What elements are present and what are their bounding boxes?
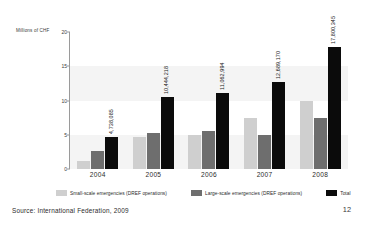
bar-group: 10,444,218: [126, 32, 182, 169]
bar-small: [188, 135, 201, 169]
x-tick-label: 2004: [70, 171, 126, 178]
bar-small: [300, 101, 313, 170]
source-note: Source: International Federation, 2009: [12, 207, 129, 214]
x-tick-label: 2007: [237, 171, 293, 178]
legend-swatch: [326, 190, 337, 196]
page-number: 12: [343, 205, 351, 214]
bar-large: [91, 151, 104, 169]
bar-total: 4,738,085: [105, 137, 118, 169]
legend-item: Total: [326, 190, 350, 196]
bar-small: [244, 118, 257, 169]
bar-group: 17,800,345: [292, 32, 348, 169]
x-tick-label: 2005: [126, 171, 182, 178]
legend-swatch: [56, 190, 67, 196]
x-tick-label: 2008: [292, 171, 348, 178]
legend-label: Small-scale emergencies (DREF operations…: [70, 191, 167, 196]
bar-large: [147, 133, 160, 169]
plot-area: 05101520 4,738,08510,444,21811,062,99412…: [70, 32, 348, 169]
bar-value-label: 4,738,085: [108, 109, 114, 134]
bar-group: 12,689,170: [237, 32, 293, 169]
legend-label: Total: [340, 191, 350, 196]
y-axis-unit-caption: Millions of CHF: [16, 28, 49, 33]
bar-total: 10,444,218: [161, 97, 174, 169]
bar-large: [314, 118, 327, 169]
bar-large: [202, 131, 215, 169]
legend-item: Small-scale emergencies (DREF operations…: [56, 190, 167, 196]
legend-label: Large-scale emergencies (DREF operations…: [205, 191, 302, 196]
bar-group: 4,738,085: [70, 32, 126, 169]
bar-value-label: 10,444,218: [163, 66, 169, 94]
x-axis-labels: 20042005200620072008: [70, 171, 348, 178]
bar-total: 11,062,994: [216, 93, 229, 169]
bar-value-label: 12,689,170: [275, 51, 281, 79]
bar-large: [258, 135, 271, 169]
bar-value-label: 17,800,345: [330, 16, 336, 44]
bar-value-label: 11,062,994: [219, 63, 225, 91]
bar-groups: 4,738,08510,444,21811,062,99412,689,1701…: [70, 32, 348, 169]
legend-item: Large-scale emergencies (DREF operations…: [191, 190, 302, 196]
x-tick-label: 2006: [181, 171, 237, 178]
bar-group: 11,062,994: [181, 32, 237, 169]
bar-total: 12,689,170: [272, 82, 285, 169]
bar-small: [77, 161, 90, 169]
bar-small: [133, 137, 146, 169]
bar-total: 17,800,345: [328, 47, 341, 169]
chart-figure: Millions of CHF 05101520 4,738,08510,444…: [0, 0, 365, 225]
legend-swatch: [191, 190, 202, 196]
chart-legend: Small-scale emergencies (DREF operations…: [56, 190, 356, 196]
